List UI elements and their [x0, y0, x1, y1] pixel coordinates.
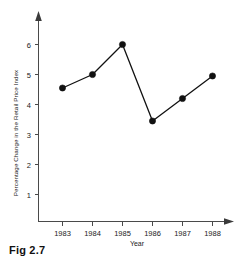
- x-tick-label-1983: 1983: [54, 229, 71, 238]
- y-tick-label-1: 1: [27, 191, 31, 200]
- data-point-1987: [179, 95, 185, 101]
- x-axis-title: Year: [130, 240, 145, 247]
- x-tick-label-1988: 1988: [204, 229, 221, 238]
- line-chart: 6 5 4 3 2 1 1983 1984 1985 1986 1987 198…: [0, 0, 243, 266]
- y-tick-label-3: 3: [27, 131, 31, 140]
- x-tick-label-1986: 1986: [144, 229, 161, 238]
- y-tick-label-2: 2: [27, 161, 31, 170]
- x-tick-label-1985: 1985: [114, 229, 131, 238]
- x-tick-label-1984: 1984: [84, 229, 101, 238]
- data-point-1986: [149, 118, 155, 124]
- data-point-1983: [59, 85, 65, 91]
- y-tick-label-6: 6: [27, 41, 31, 50]
- x-tick-label-1987: 1987: [174, 229, 191, 238]
- y-tick-label-5: 5: [27, 71, 31, 80]
- data-point-1985: [119, 41, 125, 47]
- data-point-1988: [209, 73, 215, 79]
- figure-container: 6 5 4 3 2 1 1983 1984 1985 1986 1987 198…: [0, 0, 243, 266]
- y-axis-title: Percentage Change in the Retail Price In…: [12, 69, 19, 196]
- chart-background: [0, 0, 243, 266]
- figure-caption: Fig 2.7: [9, 244, 45, 256]
- data-point-1984: [89, 71, 95, 77]
- y-tick-label-4: 4: [27, 101, 31, 110]
